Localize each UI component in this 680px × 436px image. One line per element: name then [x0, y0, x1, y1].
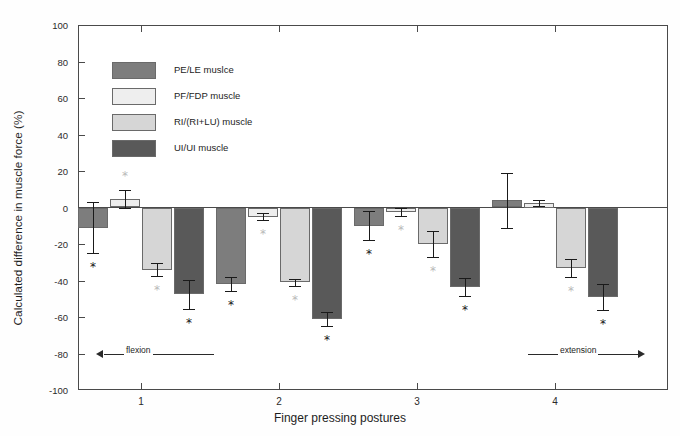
error-bar-cap: [597, 284, 609, 285]
error-bar-cap: [565, 259, 577, 260]
error-bar: [401, 208, 402, 215]
error-bar-cap: [151, 263, 163, 264]
significance-marker: *: [122, 170, 128, 182]
legend: PE/LE muslce PF/FDP muscle RI/(RI+LU) mu…: [112, 60, 322, 164]
extension-annotation: extension: [528, 348, 646, 360]
error-bar-cap: [183, 280, 195, 281]
y-tick-label: 60: [34, 93, 68, 104]
error-bar-cap: [501, 228, 513, 229]
x-tick-mark-top: [279, 25, 280, 32]
y-tick-mark: [79, 171, 85, 172]
error-bar: [327, 312, 328, 327]
error-bar-cap: [257, 220, 269, 221]
error-bar-cap: [225, 277, 237, 278]
y-tick-label: -40: [34, 275, 68, 286]
error-bar-cap: [225, 291, 237, 292]
error-bar: [263, 213, 264, 220]
y-tick-mark: [79, 135, 85, 136]
error-bar-cap: [427, 231, 439, 232]
error-bar-cap: [501, 173, 513, 174]
legend-label-pf-fdp: PF/FDP muscle: [174, 90, 240, 101]
significance-marker: *: [462, 304, 468, 316]
legend-swatch-pe-le: [112, 62, 156, 79]
error-bar-cap: [321, 326, 333, 327]
flexion-annotation: flexion: [96, 348, 214, 360]
error-bar-cap: [597, 310, 609, 311]
significance-marker: *: [154, 284, 160, 296]
y-tick-mark: [79, 354, 85, 355]
error-bar-cap: [533, 200, 545, 201]
error-bar-cap: [533, 206, 545, 207]
y-tick-mark: [79, 317, 85, 318]
error-bar-cap: [395, 216, 407, 217]
y-axis-title-container: Calculated difference in muscle force (%…: [6, 0, 30, 436]
y-tick-label: 40: [34, 129, 68, 140]
x-tick-label: 4: [552, 396, 558, 407]
legend-item: UI/UI muscle: [112, 138, 322, 164]
significance-marker: *: [366, 248, 372, 260]
error-bar: [93, 202, 94, 253]
bar: [450, 208, 480, 287]
bar: [280, 208, 310, 283]
y-tick-label: -20: [34, 239, 68, 250]
y-tick-mark: [79, 244, 85, 245]
error-bar-cap: [257, 213, 269, 214]
legend-swatch-ui-ui: [112, 140, 156, 157]
significance-marker: *: [90, 261, 96, 273]
y-tick-label: 0: [34, 202, 68, 213]
figure-canvas: Calculated difference in muscle force (%…: [0, 0, 680, 436]
y-tick-label: -60: [34, 312, 68, 323]
error-bar-cap: [87, 202, 99, 203]
x-tick-mark: [141, 383, 142, 390]
y-tick-label: 100: [34, 20, 68, 31]
significance-marker: *: [228, 299, 234, 311]
error-bar: [465, 278, 466, 296]
significance-marker: *: [260, 228, 266, 240]
significance-marker: *: [568, 285, 574, 297]
x-tick-label: 1: [138, 396, 144, 407]
error-bar-cap: [119, 190, 131, 191]
error-bar: [125, 190, 126, 208]
x-axis-title: Finger pressing postures: [0, 411, 680, 425]
bar: [142, 208, 172, 270]
x-tick-mark-top: [555, 25, 556, 32]
bar: [216, 208, 246, 285]
error-bar-cap: [87, 253, 99, 254]
x-tick-mark-top: [417, 25, 418, 32]
y-tick-mark: [79, 62, 85, 63]
extension-label: extension: [558, 345, 598, 355]
error-bar-cap: [321, 312, 333, 313]
significance-marker: *: [292, 294, 298, 306]
significance-marker: *: [324, 334, 330, 346]
error-bar: [571, 259, 572, 277]
error-bar-cap: [395, 208, 407, 209]
legend-swatch-ri-lu: [112, 114, 156, 131]
legend-label-ri-lu: RI/(RI+LU) muscle: [174, 116, 252, 127]
error-bar: [295, 279, 296, 286]
error-bar-cap: [183, 309, 195, 310]
error-bar: [433, 231, 434, 257]
x-tick-mark: [417, 383, 418, 390]
error-bar-cap: [565, 277, 577, 278]
y-tick-mark: [79, 281, 85, 282]
y-tick-label: 80: [34, 56, 68, 67]
error-bar: [189, 280, 190, 309]
flexion-label: flexion: [124, 345, 153, 355]
significance-marker: *: [186, 317, 192, 329]
error-bar: [507, 173, 508, 228]
legend-label-pe-le: PE/LE muslce: [174, 64, 234, 75]
error-bar: [157, 263, 158, 276]
error-bar-cap: [289, 279, 301, 280]
legend-swatch-pf-fdp: [112, 88, 156, 105]
error-bar-cap: [459, 278, 471, 279]
error-bar-cap: [363, 240, 375, 241]
error-bar-cap: [459, 296, 471, 297]
legend-item: PE/LE muslce: [112, 60, 322, 86]
error-bar: [603, 284, 604, 310]
y-tick-label: 20: [34, 166, 68, 177]
y-tick-mark: [79, 98, 85, 99]
error-bar-cap: [119, 208, 131, 209]
error-bar-cap: [151, 276, 163, 277]
significance-marker: *: [600, 318, 606, 330]
significance-marker: *: [430, 265, 436, 277]
